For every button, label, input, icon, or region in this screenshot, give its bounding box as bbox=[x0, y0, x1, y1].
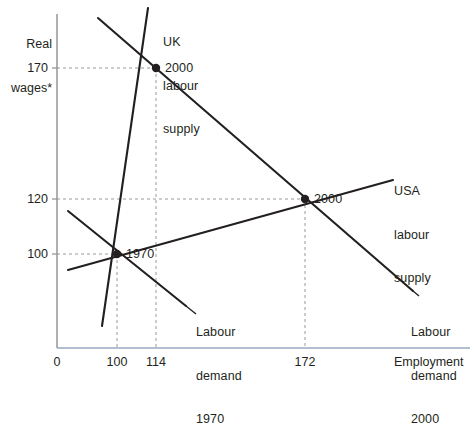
y-axis-title-line2: wages* bbox=[6, 81, 52, 96]
labour-demand-1970-label-line3: 1970 bbox=[196, 412, 242, 427]
uk-labour-supply-label-line3: supply bbox=[163, 122, 200, 137]
y-tick-label-120: 120 bbox=[10, 192, 48, 206]
y-tick-label-170: 170 bbox=[10, 61, 48, 75]
x-tick-label-114: 114 bbox=[141, 355, 171, 369]
uk-labour-supply-label: UK labour supply bbox=[163, 6, 200, 166]
x-tick-label-172: 172 bbox=[290, 355, 320, 369]
usa-labour-supply-label-line2: labour bbox=[394, 228, 431, 243]
point-label-uk-2000: 2000 bbox=[165, 61, 193, 76]
point-label-usa-2000: 2000 bbox=[314, 192, 342, 207]
labour-demand-2000-label-line2: demand bbox=[411, 369, 457, 384]
leader-demand-1970 bbox=[186, 306, 196, 314]
uk-labour-supply-label-line1: UK bbox=[163, 35, 200, 50]
usa-labour-supply-label-line3: supply bbox=[394, 271, 431, 286]
labour-demand-1970-label-line1: Labour bbox=[196, 325, 242, 340]
x-tick-label-0: 0 bbox=[44, 355, 70, 369]
labour-demand-1970-label: Labour demand 1970 bbox=[196, 296, 242, 427]
labour-demand-2000-label-line3: 2000 bbox=[411, 412, 457, 427]
x-tick-label-100: 100 bbox=[102, 355, 132, 369]
labour-demand-2000-label: Labour demand 2000 bbox=[411, 296, 457, 427]
point-1970 bbox=[113, 250, 121, 258]
point-uk-2000 bbox=[152, 64, 160, 72]
labour-demand-2000-label-line1: Labour bbox=[411, 325, 457, 340]
labour-demand-1970-label-line2: demand bbox=[196, 369, 242, 384]
usa-labour-supply-label: USA labour supply bbox=[394, 155, 431, 315]
point-usa-2000 bbox=[301, 195, 309, 203]
y-axis-title-line1: Real bbox=[6, 37, 52, 52]
uk-labour-supply-label-line2: labour bbox=[163, 79, 200, 94]
usa-labour-supply-label-line1: USA bbox=[394, 184, 431, 199]
point-label-1970: 1970 bbox=[126, 247, 154, 262]
y-tick-label-100: 100 bbox=[10, 247, 48, 261]
